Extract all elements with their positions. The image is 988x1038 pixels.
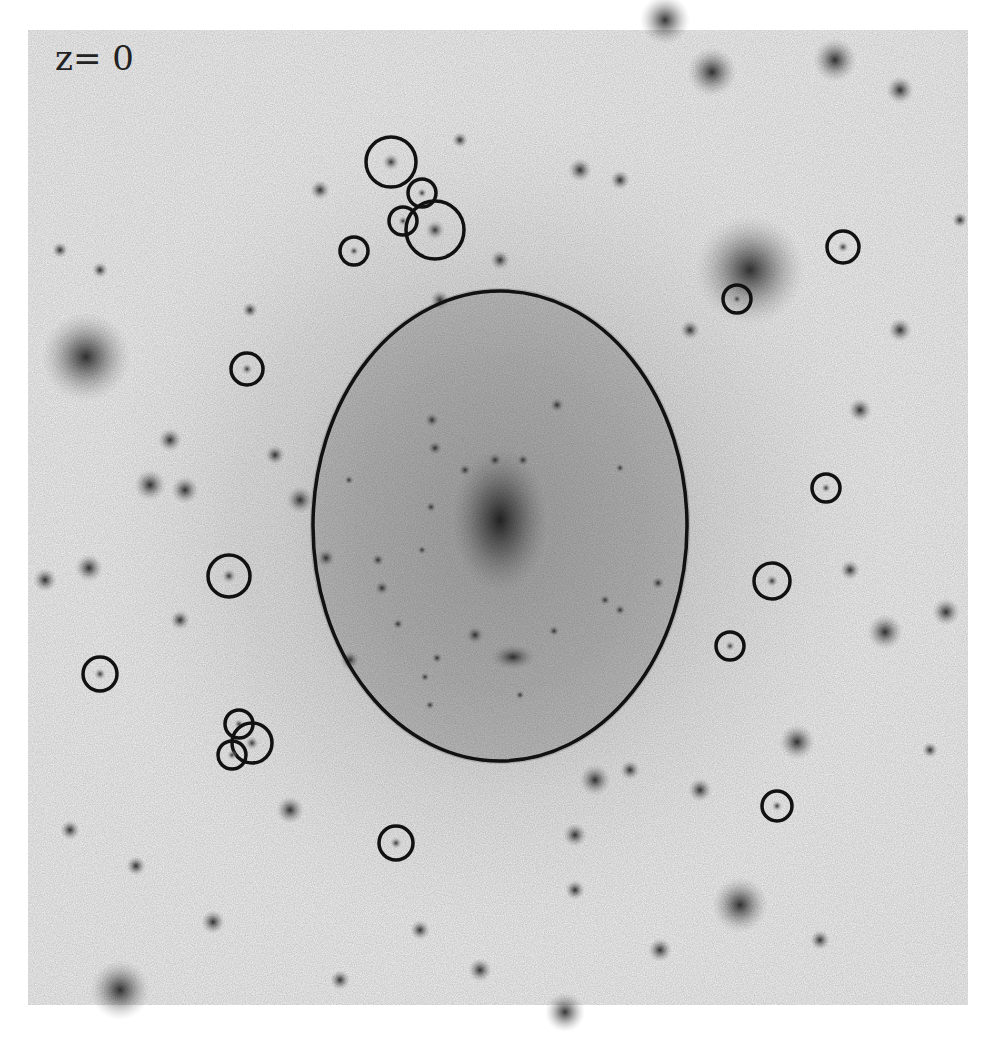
figure-canvas <box>0 0 988 1038</box>
marked-galaxy-core <box>766 575 779 588</box>
marked-galaxy-core <box>349 246 359 256</box>
marked-galaxy-core <box>725 641 735 651</box>
marked-galaxy-core <box>390 837 402 849</box>
marked-galaxy-core <box>837 241 848 252</box>
marked-galaxy-core <box>245 736 259 750</box>
marked-galaxy-core <box>821 483 831 493</box>
marked-galaxy-core <box>382 153 400 171</box>
marked-galaxy-core <box>425 220 445 240</box>
marked-galaxy-core <box>227 750 237 760</box>
marked-galaxy-core <box>94 668 106 680</box>
redshift-label: z= 0 <box>55 38 134 78</box>
marked-galaxy-core <box>222 569 237 584</box>
marked-galaxy-core <box>772 801 783 812</box>
marked-galaxy-core <box>241 363 252 374</box>
marked-galaxy-core <box>732 294 742 304</box>
marked-galaxy-core <box>417 188 427 198</box>
noise-grain <box>28 30 968 1005</box>
